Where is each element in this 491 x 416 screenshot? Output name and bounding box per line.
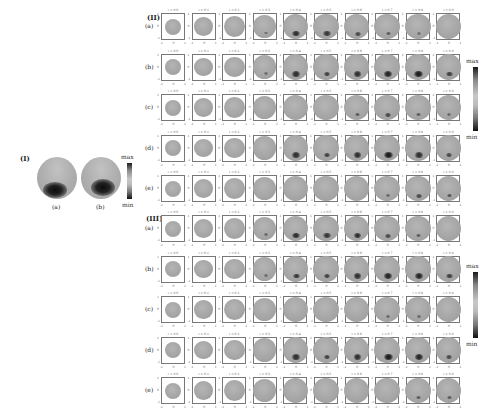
x-tick-labels: -101: [252, 163, 278, 167]
y-tick-label: 0: [432, 24, 434, 28]
y-tick-label: 1: [310, 93, 312, 97]
plot-frame: [161, 175, 185, 202]
x-tick-label: -1: [282, 122, 285, 126]
y-tick-label: 0: [432, 186, 434, 190]
x-tick-labels: -101: [282, 365, 308, 369]
x-tick-label: 0: [356, 163, 358, 167]
section-I-disk-a: [37, 157, 77, 199]
plot-frame: [314, 94, 338, 121]
y-tick-label: -1: [310, 77, 313, 81]
x-tick-label: -1: [374, 41, 377, 45]
heatmap-panel: t = 0.510-1-101: [310, 210, 339, 250]
y-tick-label: 0: [279, 105, 281, 109]
plot-frame: [406, 377, 430, 404]
intensity-spot: [324, 153, 331, 157]
x-tick-label: 0: [234, 324, 236, 328]
y-tick-label: 0: [371, 388, 373, 392]
time-label: t = 0.3: [253, 49, 277, 53]
pressure-disk: [374, 176, 400, 202]
y-tick-label: -1: [157, 400, 160, 404]
heatmap-panel: t = 0.010-1-101: [157, 8, 186, 48]
x-tick-labels: -101: [191, 163, 217, 167]
y-tick-label: 0: [341, 146, 343, 150]
y-tick-label: -1: [279, 117, 282, 121]
pressure-disk: [436, 256, 462, 282]
x-tick-labels: -101: [374, 41, 400, 45]
x-tick-label: 0: [295, 163, 297, 167]
x-tick-label: 1: [306, 365, 308, 369]
time-label: t = 0.2: [222, 8, 246, 12]
x-tick-label: -1: [252, 405, 255, 409]
heatmap-panel: t = 0.610-1-101: [341, 210, 370, 250]
pressure-disk: [405, 297, 431, 323]
y-tick-label: -1: [188, 279, 191, 283]
y-tick-label: 1: [157, 12, 159, 16]
time-label: t = 0.2: [222, 291, 246, 295]
x-tick-label: 1: [215, 82, 217, 86]
pressure-disk: [313, 216, 339, 242]
x-tick-label: -1: [160, 163, 163, 167]
plot-frame: [283, 337, 307, 364]
y-tick-label: -1: [218, 36, 221, 40]
pressure-disk: [344, 297, 370, 323]
intensity-spot: [292, 71, 300, 76]
intensity-spot: [323, 31, 330, 36]
plot-frame: [222, 54, 246, 81]
pressure-disk: [194, 341, 212, 359]
x-tick-label: -1: [344, 284, 347, 288]
row-label: (c): [145, 305, 153, 312]
x-tick-labels: -101: [282, 203, 308, 207]
y-tick-label: 1: [341, 53, 343, 57]
y-tick-label: -1: [279, 77, 282, 81]
y-tick-label: 0: [249, 146, 251, 150]
y-tick-label: 0: [279, 388, 281, 392]
x-tick-label: 1: [398, 243, 400, 247]
x-tick-label: 0: [448, 122, 450, 126]
heatmap-panel: t = 0.310-1-101: [249, 8, 278, 48]
x-tick-label: -1: [435, 243, 438, 247]
time-label: t = 0.4: [283, 49, 307, 53]
x-tick-labels: -101: [160, 41, 186, 45]
heatmap-panel: t = 0.110-1-101: [188, 251, 217, 291]
x-tick-label: 1: [459, 203, 461, 207]
y-tick-label: 0: [157, 348, 159, 352]
x-tick-label: 0: [356, 284, 358, 288]
y-tick-label: 1: [402, 295, 404, 299]
pressure-disk: [253, 15, 276, 38]
x-tick-label: 0: [387, 324, 389, 328]
x-tick-labels: -101: [252, 82, 278, 86]
heatmap-panel: t = 0.810-1-101: [402, 49, 431, 89]
pressure-disk: [405, 216, 431, 242]
y-tick-label: 0: [371, 186, 373, 190]
y-tick-label: -1: [341, 117, 344, 121]
y-tick-label: 0: [279, 24, 281, 28]
y-tick-label: 1: [218, 376, 220, 380]
y-tick-label: 0: [432, 348, 434, 352]
plot-frame: [436, 256, 460, 283]
y-tick-label: 0: [402, 267, 404, 271]
pressure-disk: [283, 297, 309, 323]
x-tick-label: 0: [234, 284, 236, 288]
y-tick-label: 1: [432, 295, 434, 299]
heatmap-panel: t = 0.010-1-101: [157, 332, 186, 372]
time-label: t = 0.9: [436, 130, 460, 134]
time-label: t = 0.9: [436, 170, 460, 174]
y-tick-label: 1: [279, 93, 281, 97]
row-label: (c): [145, 103, 153, 110]
y-tick-label: -1: [249, 117, 252, 121]
y-tick-label: 0: [218, 267, 220, 271]
y-tick-label: 1: [432, 214, 434, 218]
x-tick-label: 0: [203, 203, 205, 207]
x-tick-label: 1: [398, 203, 400, 207]
y-tick-label: -1: [371, 117, 374, 121]
x-tick-labels: -101: [435, 203, 461, 207]
x-tick-label: -1: [221, 82, 224, 86]
x-tick-labels: -101: [252, 243, 278, 247]
plot-frame: [222, 94, 246, 121]
x-tick-labels: -101: [344, 365, 370, 369]
x-tick-labels: -101: [160, 122, 186, 126]
intensity-spot: [386, 194, 390, 197]
y-tick-label: 1: [341, 295, 343, 299]
intensity-spot: [446, 72, 453, 76]
x-tick-label: 0: [448, 405, 450, 409]
